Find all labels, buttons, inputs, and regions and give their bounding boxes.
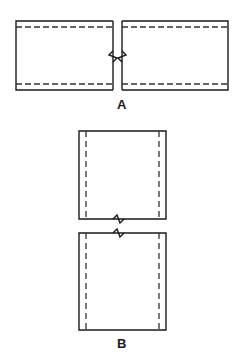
a-right-rect-outline xyxy=(122,21,228,90)
figure-label-b: B xyxy=(107,337,137,350)
view-a-group xyxy=(16,21,228,90)
a-right-rect xyxy=(122,21,228,90)
figure-label-a: A xyxy=(107,98,137,111)
b-top-rect-outline xyxy=(79,131,166,219)
b-top-rect xyxy=(79,131,166,219)
b-bottom-rect-outline xyxy=(79,233,166,330)
b-bottom-rect xyxy=(79,233,166,330)
view-b-group xyxy=(79,131,166,330)
a-left-rect xyxy=(16,21,113,90)
a-left-rect-outline xyxy=(16,21,113,90)
technical-diagram-canvas xyxy=(0,0,244,359)
